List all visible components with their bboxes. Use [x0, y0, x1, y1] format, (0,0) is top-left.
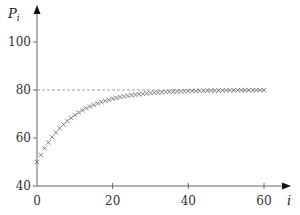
x-axis-label: i [287, 193, 291, 208]
x-tick-label: 40 [181, 194, 196, 208]
data-points [35, 88, 266, 164]
x-tick-label: 60 [256, 194, 271, 208]
data-point-marker-icon [95, 101, 99, 105]
data-point-marker-icon [118, 95, 122, 99]
data-point-marker-icon [92, 103, 96, 107]
x-tick-label: 0 [33, 194, 41, 208]
data-point-marker-icon [163, 90, 167, 94]
x-tick-label: 20 [105, 194, 120, 208]
data-point-marker-icon [54, 130, 58, 134]
data-point-marker-icon [122, 94, 126, 98]
data-point-marker-icon [205, 88, 209, 92]
data-point-marker-icon [216, 88, 220, 92]
y-tick-label: 80 [16, 83, 31, 97]
data-point-marker-icon [39, 153, 43, 157]
axes [34, 5, 292, 190]
data-point-marker-icon [58, 126, 62, 130]
data-point-marker-icon [103, 99, 107, 103]
data-point-marker-icon [179, 89, 183, 93]
data-point-marker-icon [42, 146, 46, 150]
x-axis-arrow-icon [282, 183, 291, 190]
y-tick-label: 40 [16, 179, 31, 193]
data-point-marker-icon [107, 98, 111, 102]
data-point-marker-icon [76, 110, 80, 114]
data-point-marker-icon [197, 89, 201, 93]
data-point-marker-icon [201, 88, 205, 92]
data-point-marker-icon [213, 88, 217, 92]
y-axis-arrow-icon [34, 5, 41, 14]
data-point-marker-icon [65, 119, 69, 123]
ticks: 0204060406080100 [8, 35, 272, 208]
data-point-marker-icon [114, 96, 118, 100]
y-tick-label: 100 [8, 35, 31, 49]
chart: 0204060406080100 Pi i [0, 0, 300, 215]
data-point-marker-icon [110, 97, 114, 101]
data-point-marker-icon [190, 89, 194, 93]
data-point-marker-icon [186, 89, 190, 93]
data-point-marker-icon [220, 88, 224, 92]
data-point-marker-icon [194, 89, 198, 93]
data-point-marker-icon [50, 135, 54, 139]
data-point-marker-icon [69, 116, 73, 120]
data-point-marker-icon [175, 89, 179, 93]
y-tick-label: 60 [16, 131, 31, 145]
y-axis-label: Pi [7, 6, 20, 23]
data-point-marker-icon [46, 140, 50, 144]
data-point-marker-icon [99, 100, 103, 104]
data-point-marker-icon [209, 88, 213, 92]
data-point-marker-icon [73, 113, 77, 117]
